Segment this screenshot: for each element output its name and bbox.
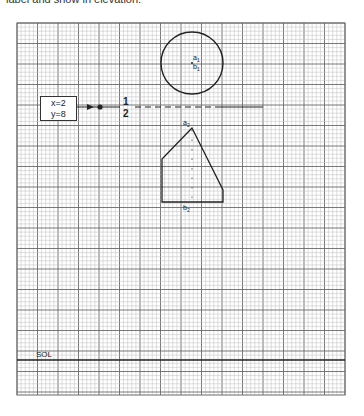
reference-label-1: 1 — [123, 96, 129, 107]
elevation-label-a: a2 — [183, 119, 190, 128]
coordinate-box: x=2 y=8 — [40, 96, 77, 121]
grid-paper — [17, 23, 345, 395]
plan-label-a: a1 — [193, 54, 200, 63]
reference-dot — [97, 104, 102, 109]
x-coordinate: x=2 — [51, 98, 66, 109]
reference-label-2: 2 — [123, 108, 129, 119]
ground-label: SOL — [36, 350, 53, 359]
elevation-label-b: b2 — [183, 204, 190, 213]
y-coordinate: y=8 — [51, 109, 66, 120]
graph-paper-drawing: 1 2 a1 b1 a2 b2 SOL — [0, 0, 364, 416]
